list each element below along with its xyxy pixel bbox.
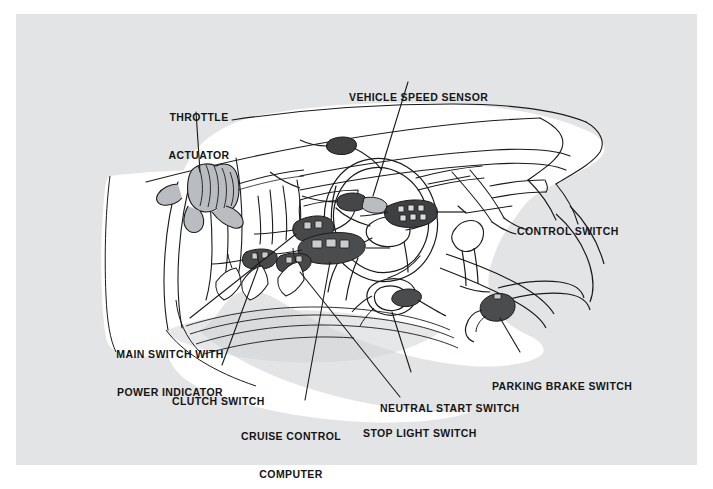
label-control-switch: CONTROL SWITCH <box>517 200 619 263</box>
label-cruise-control-computer: CRUISE CONTROL COMPUTER <box>233 405 349 489</box>
label-parking-brake-switch: PARKING BRAKE SWITCH <box>492 355 632 418</box>
label-vehicle-speed-sensor-line1: VEHICLE SPEED SENSOR <box>349 91 488 104</box>
label-throttle-actuator-line2: ACTUATOR <box>153 149 245 162</box>
label-control-switch-line1: CONTROL SWITCH <box>517 225 619 238</box>
label-parking-brake-switch-line1: PARKING BRAKE SWITCH <box>492 380 632 393</box>
diagram-page: THROTTLE ACTUATOR VEHICLE SPEED SENSOR C… <box>0 0 713 489</box>
label-vehicle-speed-sensor: VEHICLE SPEED SENSOR <box>349 66 488 129</box>
label-cruise-control-computer-line1: CRUISE CONTROL <box>233 430 349 443</box>
label-cruise-control-computer-line2: COMPUTER <box>233 468 349 481</box>
label-throttle-actuator: THROTTLE ACTUATOR <box>153 86 245 186</box>
label-main-switch-line1: MAIN SWITCH WITH <box>108 348 232 361</box>
label-throttle-actuator-line1: THROTTLE <box>153 111 245 124</box>
